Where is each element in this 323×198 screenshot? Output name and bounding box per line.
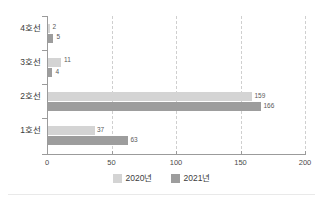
y-axis-line <box>47 16 48 154</box>
x-axis-label-150: 150 <box>234 158 247 167</box>
gridline-150 <box>241 16 242 154</box>
bar-value-2021-1호선: 63 <box>131 137 138 144</box>
x-axis-label-50: 50 <box>107 158 115 167</box>
y-axis-tick <box>42 84 47 85</box>
x-axis-tick-200 <box>305 151 306 155</box>
bar-value-2021-4호선: 5 <box>57 34 61 41</box>
legend-label-2020: 2020년 <box>126 174 153 183</box>
gridline-200 <box>305 16 306 154</box>
bar-value-2020-2호선: 159 <box>255 93 266 100</box>
bar-value-2021-3호선: 4 <box>56 69 60 76</box>
gridline-50 <box>112 16 113 154</box>
x-axis-tick-50 <box>112 151 113 155</box>
y-axis-tick <box>42 50 47 51</box>
bar-chart: 4호선 2 5 3호선 11 4 2호선 159 166 1호선 37 <box>0 0 323 198</box>
category-label-4호선: 4호선 <box>20 24 41 33</box>
bar-value-2020-1호선: 37 <box>97 127 104 134</box>
x-axis-tick-100 <box>176 151 177 155</box>
chart-legend: 2020년 2021년 <box>0 174 323 183</box>
y-axis-tick <box>42 118 47 119</box>
category-label-2호선: 2호선 <box>20 92 41 101</box>
x-axis-label-200: 200 <box>299 158 312 167</box>
category-label-3호선: 3호선 <box>20 58 41 67</box>
bar-value-2020-4호선: 2 <box>53 24 57 31</box>
plot-area: 4호선 2 5 3호선 11 4 2호선 159 166 1호선 37 <box>47 16 305 154</box>
figure-bottom-rule <box>8 194 315 195</box>
legend-swatch-icon-2021 <box>171 174 180 183</box>
x-axis-tick-150 <box>241 151 242 155</box>
bar-2021-1호선 <box>47 136 128 145</box>
x-axis-label-100: 100 <box>170 158 183 167</box>
legend-item-2021[interactable]: 2021년 <box>171 174 211 183</box>
bar-2020-3호선 <box>47 58 61 67</box>
bar-2021-2호선 <box>47 102 261 111</box>
x-axis-label-0: 0 <box>45 158 49 167</box>
legend-label-2021: 2021년 <box>184 174 211 183</box>
x-axis-tick-0 <box>47 151 48 155</box>
category-label-1호선: 1호선 <box>20 126 41 135</box>
gridline-100 <box>176 16 177 154</box>
bar-value-2020-3호선: 11 <box>64 57 71 64</box>
y-axis-tick <box>42 16 47 17</box>
bar-2020-2호선 <box>47 92 252 101</box>
legend-item-2020[interactable]: 2020년 <box>113 174 153 183</box>
bar-value-2021-2호선: 166 <box>264 103 275 110</box>
legend-swatch-icon-2020 <box>113 174 122 183</box>
bar-2020-1호선 <box>47 126 95 135</box>
